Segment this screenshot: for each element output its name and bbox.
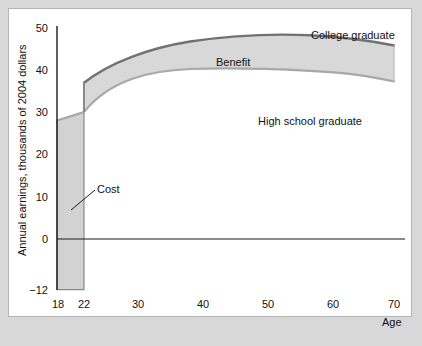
x-tick-60: 60 xyxy=(325,298,341,310)
benefit-label: Benefit xyxy=(216,56,250,68)
x-tick-50: 50 xyxy=(260,298,276,310)
x-axis-title: Age xyxy=(382,316,402,328)
high-school-graduate-label: High school graduate xyxy=(258,115,362,127)
chart-figure-panel xyxy=(8,8,412,317)
y-tick-neg12: −12 xyxy=(16,284,48,296)
x-tick-22: 22 xyxy=(76,298,92,310)
x-tick-30: 30 xyxy=(130,298,146,310)
x-tick-70: 70 xyxy=(386,298,402,310)
y-tick-50: 50 xyxy=(22,22,48,34)
y-axis-title: Annual earnings, thousands of 2004 dolla… xyxy=(16,56,28,256)
x-tick-18: 18 xyxy=(50,298,66,310)
college-graduate-label: College graduate xyxy=(311,29,395,41)
cost-label: Cost xyxy=(97,183,120,195)
x-tick-40: 40 xyxy=(195,298,211,310)
